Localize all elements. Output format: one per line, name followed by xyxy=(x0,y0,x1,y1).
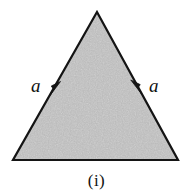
left-side-length-label: a xyxy=(31,76,41,95)
figure-container: a a (i) xyxy=(0,0,193,194)
triangle-figure-svg xyxy=(0,0,193,194)
right-side-length-label: a xyxy=(149,76,159,95)
triangle-grain-texture xyxy=(0,0,193,194)
figure-caption: (i) xyxy=(0,172,193,191)
